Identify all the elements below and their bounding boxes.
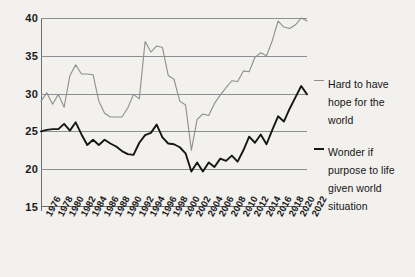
x-axis-tick-mark bbox=[110, 207, 111, 211]
x-axis-tick-mark bbox=[295, 207, 296, 211]
y-axis-tick-label: 20 bbox=[4, 163, 38, 175]
x-axis-tick-mark bbox=[272, 207, 273, 211]
x-axis-tick-mark bbox=[191, 207, 192, 211]
x-axis-tick-mark bbox=[180, 207, 181, 211]
x-axis-tick-mark bbox=[284, 207, 285, 211]
y-axis-tick-label: 40 bbox=[4, 12, 38, 24]
x-axis-tick-mark bbox=[157, 207, 158, 211]
legend-item[interactable]: Hard to have hope for the world bbox=[314, 74, 412, 128]
x-axis-tick-mark bbox=[145, 207, 146, 211]
x-axis-tick-mark bbox=[87, 207, 88, 211]
x-axis-tick-mark bbox=[203, 207, 204, 211]
y-axis-tick-label: 35 bbox=[4, 50, 38, 62]
x-axis-tick-mark bbox=[249, 207, 250, 211]
gray-line-swatch-icon bbox=[314, 80, 324, 81]
x-axis-tick-mark bbox=[307, 207, 308, 211]
legend-label: Wonder if purpose to life given world si… bbox=[328, 146, 395, 212]
x-axis-tick-mark bbox=[261, 207, 262, 211]
y-axis-tick-label: 30 bbox=[4, 88, 38, 100]
y-axis-tick-label: 15 bbox=[4, 201, 38, 213]
y-axis-tick-label: 25 bbox=[4, 125, 38, 137]
legend-label: Hard to have hope for the world bbox=[328, 78, 389, 126]
chart-legend: Hard to have hope for the worldWonder if… bbox=[314, 74, 412, 228]
x-axis-tick-mark bbox=[41, 207, 42, 211]
series-lines bbox=[41, 18, 307, 207]
x-axis-tick-mark bbox=[134, 207, 135, 211]
legend-item[interactable]: Wonder if purpose to life given world si… bbox=[314, 142, 412, 214]
line-chart: 152025303540 197619781980198219841986198… bbox=[0, 0, 415, 277]
x-axis-tick-mark bbox=[122, 207, 123, 211]
x-axis-tick-mark bbox=[99, 207, 100, 211]
series-line bbox=[41, 18, 307, 150]
x-axis-tick-mark bbox=[226, 207, 227, 211]
x-axis-tick-mark bbox=[214, 207, 215, 211]
series-line bbox=[41, 86, 307, 171]
x-axis-tick-mark bbox=[76, 207, 77, 211]
x-axis-tick-mark bbox=[64, 207, 65, 211]
x-axis-tick-mark bbox=[168, 207, 169, 211]
black-line-swatch-icon bbox=[314, 148, 324, 150]
x-axis-tick-mark bbox=[53, 207, 54, 211]
x-axis-tick-mark bbox=[238, 207, 239, 211]
